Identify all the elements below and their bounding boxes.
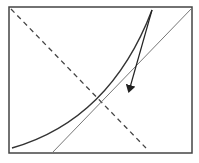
diagram-canvas [0, 0, 199, 163]
dashed-line [11, 9, 146, 148]
curve [12, 10, 152, 148]
gray-diagonal-line [52, 8, 192, 153]
frame-border [9, 7, 192, 153]
